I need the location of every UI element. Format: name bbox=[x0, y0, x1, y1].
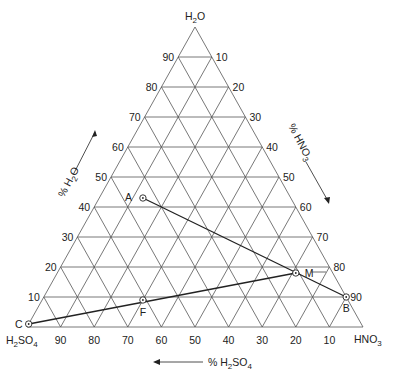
tick-labels: 9080706050403020101020304050607080909080… bbox=[28, 51, 362, 346]
tick-label-hno3: 40 bbox=[266, 141, 278, 153]
tick-label-hno3: 20 bbox=[233, 81, 245, 93]
point-label-f: F bbox=[140, 306, 146, 318]
axis-title-hno3: % HNO3 bbox=[284, 121, 330, 204]
gridline-hno3 bbox=[262, 237, 312, 327]
point-f: F bbox=[140, 297, 146, 318]
tick-label-h2so4: 50 bbox=[189, 334, 201, 346]
point-b: B bbox=[343, 294, 350, 314]
point-label-c: C bbox=[15, 318, 23, 330]
ternary-diagram: 9080706050403020101020304050607080909080… bbox=[0, 0, 395, 380]
tick-label-h2o: 30 bbox=[62, 231, 74, 243]
gridline-hno3 bbox=[128, 117, 246, 327]
vertex-label-hno3: HNO3 bbox=[354, 333, 382, 348]
gridline-h2so4 bbox=[178, 57, 329, 327]
svg-text:% H2SO4: % H2SO4 bbox=[208, 356, 252, 371]
tick-label-h2o: 60 bbox=[112, 141, 124, 153]
tick-label-hno3: 60 bbox=[300, 201, 312, 213]
svg-text:% HNO3: % HNO3 bbox=[284, 121, 316, 164]
gridline-hno3 bbox=[61, 57, 212, 327]
gridline-h2so4 bbox=[145, 117, 263, 327]
tick-label-h2o: 90 bbox=[163, 51, 175, 63]
tick-label-hno3: 80 bbox=[333, 261, 345, 273]
gridline-h2so4 bbox=[44, 297, 61, 327]
tie-lines bbox=[29, 198, 347, 324]
tick-label-h2o: 20 bbox=[45, 261, 57, 273]
tick-label-hno3: 50 bbox=[283, 171, 295, 183]
tick-label-h2o: 80 bbox=[146, 81, 158, 93]
tick-label-h2o: 40 bbox=[79, 201, 91, 213]
tick-label-hno3: 30 bbox=[249, 111, 261, 123]
tie-line-cm bbox=[29, 273, 296, 324]
gridline-hno3 bbox=[195, 177, 279, 327]
axis-title-h2o: % H2O bbox=[55, 130, 97, 200]
point-label-b: B bbox=[343, 302, 350, 314]
tick-label-h2so4: 80 bbox=[88, 334, 100, 346]
svg-text:% H2O: % H2O bbox=[55, 165, 83, 201]
gridline-h2so4 bbox=[111, 177, 195, 327]
arrow-down-icon bbox=[306, 162, 328, 201]
point-label-a: A bbox=[125, 191, 132, 203]
tick-label-h2so4: 40 bbox=[223, 334, 235, 346]
tick-label-h2o: 70 bbox=[129, 111, 141, 123]
tick-label-h2so4: 70 bbox=[122, 334, 134, 346]
tick-label-h2so4: 30 bbox=[256, 334, 268, 346]
point-m: M bbox=[293, 267, 314, 279]
axis-title-h2so4: % H2SO4 bbox=[153, 356, 252, 371]
tick-label-h2so4: 60 bbox=[156, 334, 168, 346]
tick-label-hno3: 90 bbox=[350, 291, 362, 303]
vertex-label-h2so4: H2SO4 bbox=[6, 334, 38, 349]
tick-label-h2o: 50 bbox=[95, 171, 107, 183]
point-c: C bbox=[15, 318, 32, 330]
tick-label-hno3: 10 bbox=[216, 51, 228, 63]
tick-label-h2o: 10 bbox=[28, 291, 40, 303]
tick-label-h2so4: 10 bbox=[324, 334, 336, 346]
tick-label-h2so4: 90 bbox=[55, 334, 67, 346]
vertex-label-h2o: H2O bbox=[185, 10, 205, 25]
tick-label-h2so4: 20 bbox=[290, 334, 302, 346]
point-label-m: M bbox=[305, 267, 314, 279]
tick-label-hno3: 70 bbox=[317, 231, 329, 243]
